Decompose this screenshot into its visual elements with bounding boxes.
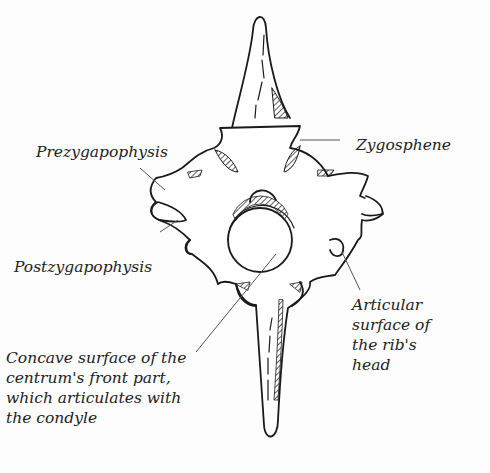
label-articular-line1: Articular: [352, 295, 430, 315]
label-concave-line2: centrum's front part,: [6, 368, 186, 388]
label-concave-line1: Concave surface of the: [6, 348, 186, 368]
label-concave-surface: Concave surface of the centrum's front p…: [6, 348, 186, 428]
leader-articular: [342, 252, 360, 290]
label-articular-line3: the rib's: [352, 335, 430, 355]
label-postzygapophysis: Postzygapophysis: [14, 257, 152, 277]
label-zygosphene: Zygosphene: [356, 135, 451, 155]
label-articular-surface: Articular surface of the rib's head: [352, 295, 430, 375]
label-prezygapophysis: Prezygapophysis: [36, 142, 168, 162]
label-articular-line4: head: [352, 355, 430, 375]
label-articular-line2: surface of: [352, 315, 430, 335]
label-concave-line3: which articulates with: [6, 388, 186, 408]
centrum: [228, 208, 292, 272]
label-concave-line4: the condyle: [6, 408, 186, 428]
